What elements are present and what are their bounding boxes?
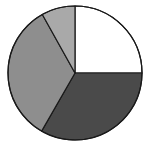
- pie-chart: [0, 0, 152, 147]
- pie-slice-1: [75, 6, 142, 73]
